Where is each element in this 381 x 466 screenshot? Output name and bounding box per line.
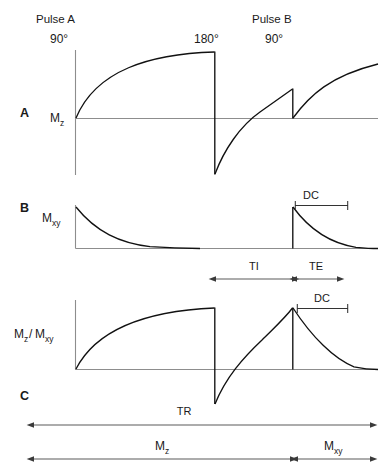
panel-b-axis-label-sub: xy	[52, 218, 61, 228]
dc-bracket-panel-c: DC	[297, 292, 348, 313]
panel-a-axis-label: M z	[50, 111, 64, 128]
mri-pulse-sequence-figure: A Pulse A 90° Pulse B 90° 180° M z	[0, 0, 381, 466]
panel-c-axis-label-separator: /	[29, 327, 33, 341]
panel-a-inversion-recovery-curve	[215, 89, 293, 174]
panel-c-axis-label-sub2: xy	[45, 334, 54, 344]
inversion-angle-label: 180°	[194, 32, 219, 46]
panel-a-t1-recovery-curve	[76, 52, 215, 118]
te-label: TE	[309, 260, 323, 272]
panel-c-label: C	[20, 389, 29, 403]
panel-b-fid-decay-b-curve	[293, 207, 378, 249]
panel-c-axis-label-main: M	[14, 327, 24, 341]
panel-b-axis-label-main: M	[42, 211, 52, 225]
figure-canvas: A Pulse A 90° Pulse B 90° 180° M z	[0, 0, 381, 466]
panel-b-fid-decay-a-curve	[76, 207, 200, 249]
bottom-span-mz-sub: z	[165, 446, 169, 456]
panel-c-inversion-recovery-curve	[215, 308, 293, 404]
panel-a-axis-label-sub: z	[60, 118, 64, 128]
panel-c-group: C M z / M xy DC	[14, 292, 378, 404]
bottom-span-mxy-main: M	[324, 439, 334, 453]
tr-arrow-group: TR	[34, 405, 370, 425]
panel-c-axis-label-sub: z	[24, 334, 28, 344]
tr-label: TR	[177, 405, 192, 417]
bottom-span-mxy-label: M xy	[324, 439, 343, 456]
panel-c-axis-label: M z / M xy	[14, 327, 54, 344]
bottom-span-mz-label: M z	[155, 439, 169, 456]
pulse-b-name-label: Pulse B	[252, 13, 292, 25]
pulse-a-angle-label: 90°	[50, 32, 68, 46]
panel-b-axis-label: M xy	[42, 211, 61, 228]
panel-a-axis-label-main: M	[50, 111, 60, 125]
panel-a-post-pulseb-recovery-curve	[293, 64, 378, 118]
bottom-span-mxy-sub: xy	[334, 446, 343, 456]
panel-c-t2-decay-curve	[293, 308, 378, 370]
dc-label-panel-b: DC	[303, 189, 319, 201]
bottom-span-group: M z M xy	[34, 439, 370, 459]
pulse-b-angle-label: 90°	[265, 32, 283, 46]
panel-c-t1-recovery-curve	[76, 308, 215, 369]
panel-b-label: B	[20, 201, 29, 215]
panel-c-axis-label-main2: M	[35, 327, 45, 341]
panel-a-group: A Pulse A 90° Pulse B 90° 180° M z	[20, 13, 378, 175]
dc-label-panel-c: DC	[314, 292, 330, 304]
panel-b-group: B M xy DC	[20, 189, 378, 249]
pulse-a-name-label: Pulse A	[36, 13, 75, 25]
ti-label: TI	[249, 260, 259, 272]
dc-bracket-panel-b: DC	[295, 189, 348, 210]
bottom-span-mz-main: M	[155, 439, 165, 453]
panel-a-label: A	[20, 106, 29, 120]
ti-te-arrow-group: TI TE	[216, 260, 337, 279]
